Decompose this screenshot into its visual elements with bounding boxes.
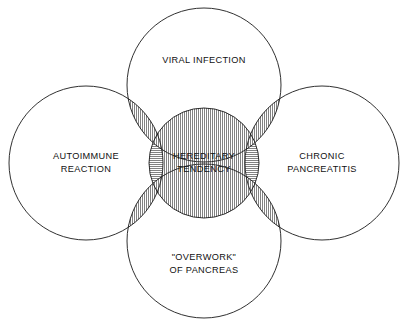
label-chronic-pancreatitis-line2: PANCREATITIS — [287, 164, 357, 174]
label-autoimmune-reaction-line1: AUTOIMMUNE — [53, 151, 119, 161]
label-overwork-of-pancreas-line2: OF PANCREAS — [169, 265, 238, 275]
label-chronic-pancreatitis-line1: CHRONIC — [299, 151, 344, 161]
label-overwork-of-pancreas-line1: "OVERWORK" — [172, 252, 236, 262]
hatch-layer — [0, 0, 408, 325]
label-hereditary-tendency-line2: TENDENCY — [177, 164, 230, 174]
label-autoimmune-reaction-line2: REACTION — [61, 164, 111, 174]
venn-diagram-root: AUTOIMMUNE REACTION VIRAL INFECTION CHRO… — [0, 0, 408, 325]
right-lens-hatch — [0, 0, 408, 325]
label-hereditary-tendency-line1: HEREDITARY — [173, 151, 235, 161]
label-viral-infection-line1: VIRAL INFECTION — [162, 55, 246, 65]
label-viral-infection: VIRAL INFECTION — [162, 55, 246, 65]
venn-diagram-canvas: AUTOIMMUNE REACTION VIRAL INFECTION CHRO… — [0, 0, 408, 325]
